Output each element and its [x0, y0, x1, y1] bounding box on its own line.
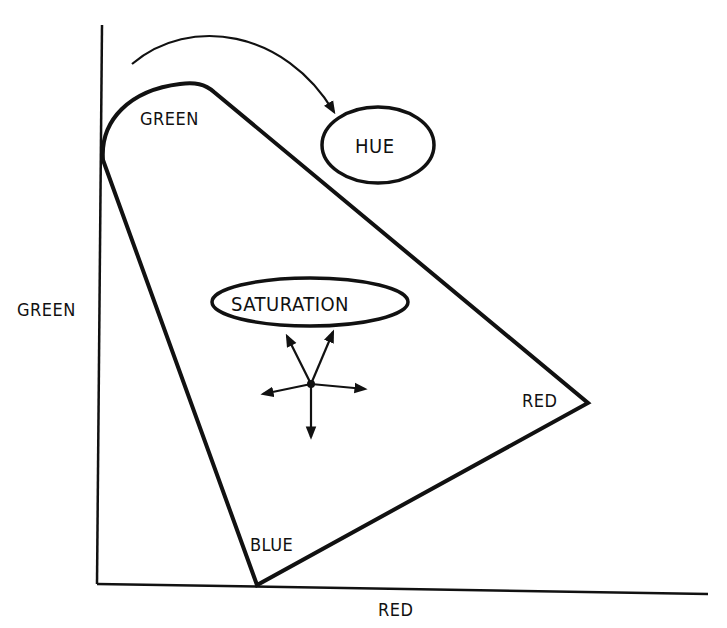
hue-arrow [132, 36, 334, 112]
gamut-green-label: GREEN [140, 108, 199, 129]
color-gamut-diagram: GREEN HUE SATURATION GREEN RED BLUE RED [0, 0, 727, 628]
hue-label: HUE [355, 134, 395, 158]
y-axis-label: GREEN [17, 299, 76, 320]
saturation-center-dot [307, 380, 315, 388]
gamut-red-label: RED [522, 390, 557, 411]
saturation-label: SATURATION [231, 292, 349, 316]
x-axis [97, 584, 708, 594]
gamut-boundary [103, 83, 588, 585]
gamut-blue-label: BLUE [250, 534, 293, 555]
x-axis-label: RED [378, 599, 413, 620]
y-axis [97, 25, 102, 584]
